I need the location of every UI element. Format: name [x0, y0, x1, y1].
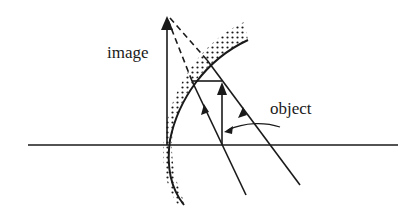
ray-1: [192, 81, 246, 195]
ray-2: [207, 60, 300, 185]
object-pointer-arrowhead-icon: [224, 126, 233, 134]
object-pointer: [228, 124, 280, 130]
object-label: object: [270, 99, 312, 118]
ray-2-arrowhead-icon: [238, 107, 247, 118]
image-arrowhead-icon: [161, 16, 173, 30]
optics-diagram: image object: [0, 0, 414, 212]
image-label: image: [107, 43, 149, 62]
mirror-stipple: [163, 22, 248, 205]
